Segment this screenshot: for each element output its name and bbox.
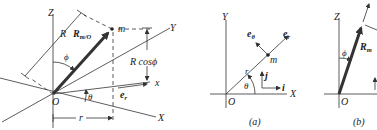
position-vector-arrow bbox=[53, 33, 108, 94]
a-label-er: er bbox=[283, 28, 290, 40]
phi-arc bbox=[53, 62, 74, 70]
a-theta-arc bbox=[248, 75, 255, 94]
label-Rcosphi: R cosϕ bbox=[129, 56, 157, 67]
r-dim-tick-top bbox=[77, 10, 86, 16]
b-label-O: O bbox=[341, 96, 348, 107]
a-label-r: r bbox=[245, 66, 249, 76]
label-vector: Rm/O bbox=[72, 28, 92, 40]
label-phi: ϕ bbox=[64, 52, 69, 62]
label-Y: Y bbox=[170, 22, 177, 33]
label-x: x bbox=[154, 77, 160, 88]
a-caption: (a) bbox=[249, 116, 261, 128]
b-caption: (b) bbox=[353, 116, 365, 128]
label-er: er bbox=[120, 89, 127, 101]
a-label-X: X bbox=[289, 88, 297, 99]
label-X: X bbox=[157, 112, 165, 123]
theta-arc bbox=[85, 90, 86, 102]
label-O: O bbox=[52, 96, 59, 107]
a-label-j: j bbox=[263, 70, 268, 81]
label-r: r bbox=[79, 112, 83, 123]
label-m: m bbox=[118, 23, 125, 34]
a-label-Y: Y bbox=[222, 11, 229, 22]
a-label-theta: θ bbox=[244, 81, 249, 91]
r-dim-ext-top bbox=[84, 15, 112, 29]
a-label-i: i bbox=[282, 82, 285, 93]
spherical-coordinates-diagram: Z R Rm/O m Y ϕ R cosϕ x O θ er r X Y eθ … bbox=[0, 0, 377, 130]
b-extension-arrow bbox=[363, 4, 369, 22]
a-er-line bbox=[226, 36, 288, 94]
a-etheta-arrow bbox=[256, 43, 268, 55]
x-projection-line bbox=[53, 82, 150, 94]
label-theta: θ bbox=[88, 92, 93, 102]
er-arrow bbox=[118, 84, 147, 88]
b-vector-arrow bbox=[339, 28, 361, 94]
b-label-Z: Z bbox=[334, 11, 340, 22]
b-side-line bbox=[365, 25, 377, 30]
b-label-phi: ϕ bbox=[342, 48, 347, 58]
y-axis bbox=[2, 28, 170, 122]
a-label-m: m bbox=[270, 54, 277, 65]
b-label-vector: Rm bbox=[359, 41, 372, 53]
label-Z: Z bbox=[48, 7, 54, 18]
r-dim-tick-bottom bbox=[21, 73, 29, 79]
figure-3d-spherical: Z R Rm/O m Y ϕ R cosϕ x O θ er r X bbox=[0, 7, 177, 128]
a-label-O: O bbox=[228, 96, 235, 107]
figure-a-polar: Y eθ er m r j θ i X O (a) bbox=[210, 11, 297, 128]
label-R-length: R bbox=[59, 28, 66, 39]
figure-b-partial: Z ϕ Rm O (b) bbox=[324, 4, 377, 128]
a-label-etheta: eθ bbox=[247, 28, 255, 40]
